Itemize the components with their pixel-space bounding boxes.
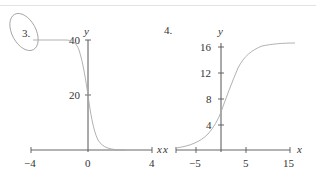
graph-4-y-tick-16: 16 <box>200 41 212 53</box>
graph-3-y-tick-20: 20 <box>69 89 81 101</box>
graph-4-x-label: x <box>296 143 302 155</box>
graph-4-x-tick-neg5: −5 <box>189 157 201 169</box>
graph-3-x-tick-4: 4 <box>149 157 155 169</box>
graph-4-x-tick-15: 15 <box>283 157 295 169</box>
graph-3-y-tick-40: 40 <box>69 34 81 46</box>
graph-3-x-label: x <box>156 143 162 155</box>
graph-4: 4. y x x 16 12 8 4 −5 5 15 <box>162 24 302 169</box>
graph-3-x-tick-neg4: −4 <box>24 157 36 169</box>
graph-4-label: 4. <box>164 24 173 36</box>
graph-4-y-tick-4: 4 <box>206 119 212 131</box>
graph-3-x-tick-0: 0 <box>85 157 91 169</box>
graph-4-y-label: y <box>217 25 223 37</box>
graph-4-y-tick-12: 12 <box>200 67 211 79</box>
graph-3-y-label: y <box>83 25 89 37</box>
graph-3-x-label-edge: x <box>162 143 168 155</box>
graph-3: 3. y x 40 20 −4 0 4 <box>4 9 162 169</box>
graph-3-label: 3. <box>22 27 31 39</box>
chart-canvas: 3. y x 40 20 −4 0 4 4. y x x 1 <box>0 0 322 178</box>
graph-4-x-tick-5: 5 <box>243 157 249 169</box>
graph-4-y-tick-8: 8 <box>206 93 212 105</box>
graph-4-curve <box>176 43 295 148</box>
